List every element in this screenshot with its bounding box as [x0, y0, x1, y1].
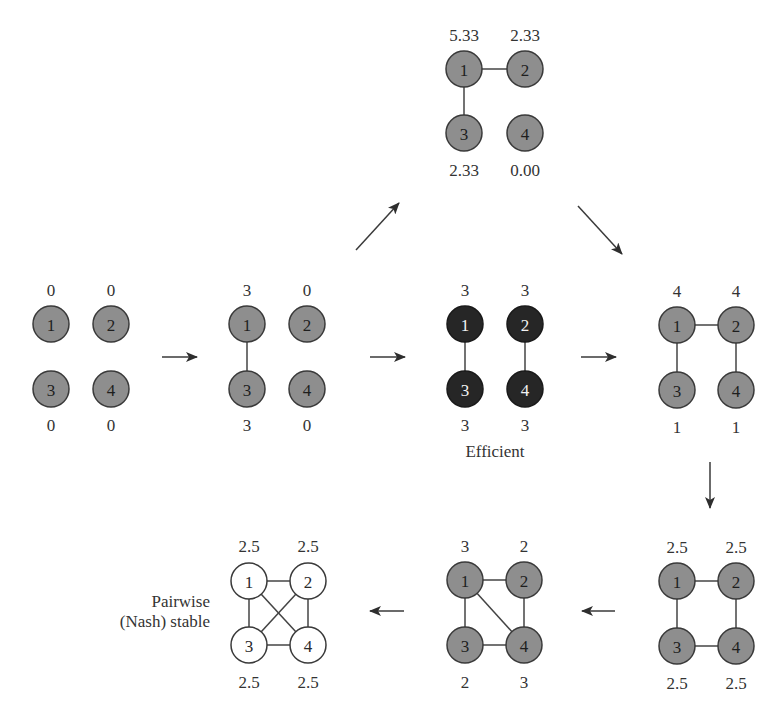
- node-3-id: 3: [461, 638, 470, 655]
- arrow-b-to-d: [356, 203, 399, 250]
- node-3-id: 3: [245, 638, 254, 655]
- node-2-id: 2: [732, 318, 741, 335]
- node-2-id: 2: [303, 317, 312, 334]
- payoff-node-2: 2: [520, 538, 529, 555]
- payoff-node-1: 3: [243, 282, 252, 299]
- node-1-id: 1: [245, 574, 254, 591]
- node-4-id: 4: [303, 382, 312, 399]
- node-2-id: 2: [521, 62, 530, 79]
- node-4-id: 4: [732, 639, 741, 656]
- node-2-id: 2: [732, 574, 741, 591]
- payoff-node-3: 2.5: [238, 674, 259, 691]
- payoff-node-4: 0: [303, 417, 312, 434]
- node-4-id: 4: [521, 382, 530, 399]
- payoff-node-3: 2.5: [666, 675, 687, 692]
- payoff-node-1: 5.33: [449, 27, 479, 44]
- pairwise-stable-caption-line-2: (Nash) stable: [120, 612, 210, 632]
- node-3-id: 3: [47, 382, 56, 399]
- payoff-node-4: 2.5: [725, 675, 746, 692]
- node-1-id: 1: [460, 62, 469, 79]
- arrow-d-to-e: [578, 206, 622, 254]
- payoff-node-2: 0: [107, 282, 116, 299]
- node-3-id: 3: [460, 126, 469, 143]
- network-formation-diagram: [0, 0, 784, 719]
- node-1-id: 1: [47, 317, 56, 334]
- node-3-id: 3: [243, 382, 252, 399]
- payoff-node-3: 2: [461, 674, 470, 691]
- payoff-node-1: 3: [461, 282, 470, 299]
- payoff-node-4: 3: [520, 674, 529, 691]
- pairwise-stable-caption: Pairwise (Nash) stable: [120, 592, 210, 631]
- payoff-node-3: 3: [461, 417, 470, 434]
- node-1-id: 1: [243, 317, 252, 334]
- payoff-node-4: 0.00: [510, 162, 540, 179]
- payoff-node-3: 3: [243, 417, 252, 434]
- node-4-id: 4: [304, 638, 313, 655]
- payoff-node-3: 2.33: [449, 162, 479, 179]
- node-4-id: 4: [732, 383, 741, 400]
- payoff-node-1: 3: [461, 538, 470, 555]
- payoff-node-3: 1: [673, 419, 682, 436]
- pairwise-stable-caption-line-1: Pairwise: [120, 592, 210, 612]
- node-4-id: 4: [520, 638, 529, 655]
- node-1-id: 1: [673, 318, 682, 335]
- payoff-node-4: 3: [521, 417, 530, 434]
- node-3-id: 3: [673, 383, 682, 400]
- payoff-node-4: 1: [732, 419, 741, 436]
- payoff-node-2: 2.5: [297, 538, 318, 555]
- payoff-node-1: 2.5: [666, 539, 687, 556]
- node-3-id: 3: [673, 639, 682, 656]
- node-1-id: 1: [461, 573, 470, 590]
- node-2-id: 2: [520, 573, 529, 590]
- efficient-caption: Efficient: [465, 443, 524, 460]
- node-1-id: 1: [461, 317, 470, 334]
- payoff-node-1: 4: [673, 283, 682, 300]
- node-3-id: 3: [461, 382, 470, 399]
- payoff-node-2: 2.5: [725, 539, 746, 556]
- payoff-node-2: 4: [732, 283, 741, 300]
- payoff-node-2: 3: [521, 282, 530, 299]
- node-4-id: 4: [521, 126, 530, 143]
- payoff-node-3: 0: [47, 417, 56, 434]
- payoff-node-2: 2.33: [510, 27, 540, 44]
- payoff-node-4: 0: [107, 417, 116, 434]
- payoff-node-1: 0: [47, 282, 56, 299]
- node-2-id: 2: [107, 317, 116, 334]
- node-2-id: 2: [521, 317, 530, 334]
- node-4-id: 4: [107, 382, 116, 399]
- node-2-id: 2: [304, 574, 313, 591]
- payoff-node-1: 2.5: [238, 538, 259, 555]
- node-1-id: 1: [673, 574, 682, 591]
- payoff-node-4: 2.5: [297, 674, 318, 691]
- payoff-node-2: 0: [303, 282, 312, 299]
